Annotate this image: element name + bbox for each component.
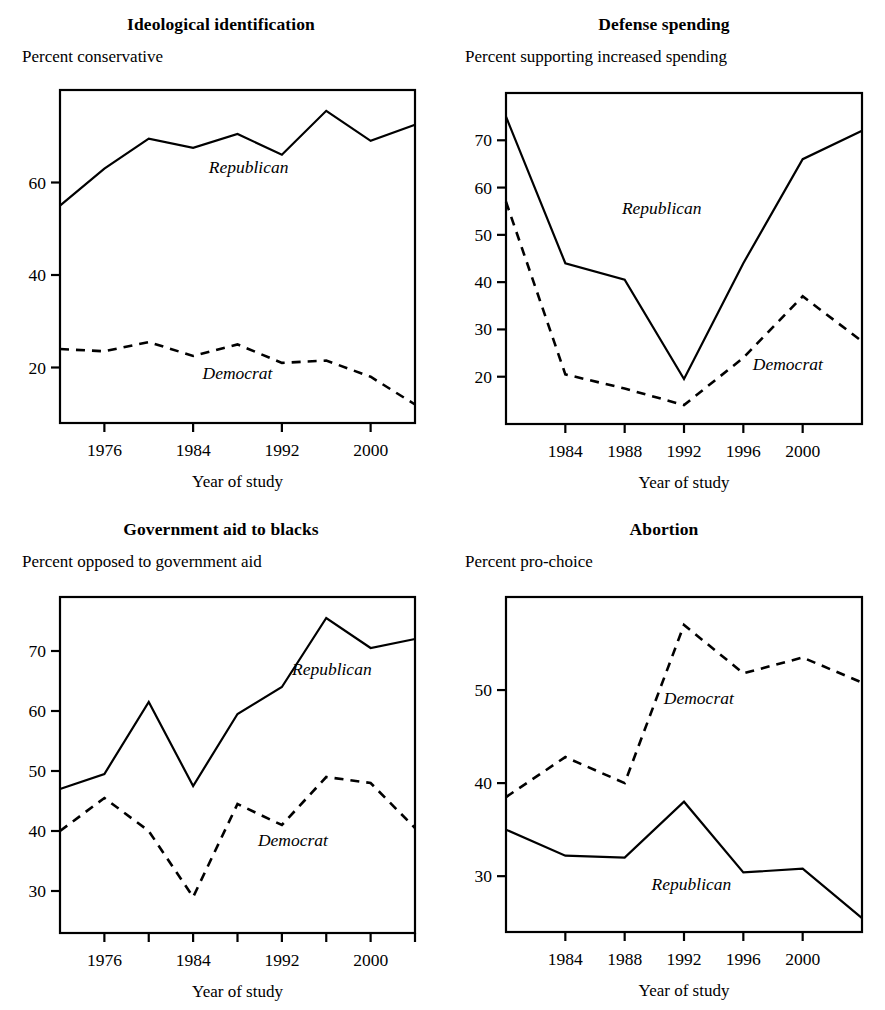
figure-grid: Ideological identification Percent conse… (0, 0, 885, 1010)
x-tick-label: 1988 (607, 949, 642, 969)
x-tick-label: 1992 (667, 949, 702, 969)
plot-area-1: 2040601976198419922000Year of studyRepub… (0, 0, 442, 505)
x-tick-label: 2000 (353, 440, 388, 460)
x-axis-title: Year of study (639, 981, 730, 1000)
series-annotation-democrat: Democrat (202, 363, 274, 383)
series-annotation-democrat: Democrat (663, 688, 735, 708)
y-tick-label: 50 (475, 680, 493, 700)
x-axis-title: Year of study (639, 473, 730, 492)
series-annotation-democrat: Democrat (257, 830, 329, 850)
y-tick-label: 20 (29, 358, 47, 378)
y-tick-label: 70 (475, 130, 493, 150)
chart-panel-abortion: Abortion Percent pro-choice 304050198419… (443, 505, 885, 1010)
x-tick-label: 1984 (548, 441, 583, 461)
x-tick-label: 1992 (264, 440, 299, 460)
plot-area-2: 20304050607019841988199219962000Year of … (443, 0, 885, 505)
x-tick-label: 1984 (176, 950, 211, 970)
y-tick-label: 40 (475, 773, 493, 793)
series-annotation-republican: Republican (208, 157, 289, 177)
series-line-democrat (60, 777, 415, 897)
y-tick-label: 40 (29, 821, 47, 841)
x-tick-label: 1984 (548, 949, 583, 969)
y-tick-label: 60 (475, 178, 493, 198)
plot-svg-1: 2040601976198419922000Year of studyRepub… (0, 0, 442, 505)
y-tick-label: 30 (475, 319, 493, 339)
plot-svg-3: 30405060701976198419922000Year of studyR… (0, 505, 442, 1010)
series-annotation-republican: Republican (291, 659, 372, 679)
series-line-democrat (506, 625, 862, 797)
x-tick-label: 2000 (353, 950, 388, 970)
plot-area-3: 30405060701976198419922000Year of studyR… (0, 505, 442, 1010)
y-tick-label: 40 (29, 265, 47, 285)
series-annotation-republican: Republican (651, 874, 732, 894)
x-tick-label: 1976 (87, 440, 122, 460)
y-tick-label: 30 (29, 881, 47, 901)
y-tick-label: 30 (475, 866, 493, 886)
plot-area-4: 30405019841988199219962000Year of studyR… (443, 505, 885, 1010)
series-line-republican (60, 618, 415, 789)
y-tick-label: 60 (29, 173, 47, 193)
x-tick-label: 1992 (264, 950, 299, 970)
x-tick-label: 1988 (607, 441, 642, 461)
x-tick-label: 1996 (726, 441, 761, 461)
y-tick-label: 20 (475, 367, 493, 387)
x-tick-label: 1992 (667, 441, 702, 461)
x-tick-label: 1976 (87, 950, 122, 970)
x-axis-title: Year of study (192, 982, 283, 1001)
chart-panel-government-aid-to-blacks: Government aid to blacks Percent opposed… (0, 505, 442, 1010)
series-annotation-democrat: Democrat (752, 354, 824, 374)
plot-svg-2: 20304050607019841988199219962000Year of … (443, 0, 885, 505)
series-line-democrat (506, 202, 862, 405)
x-tick-label: 2000 (785, 441, 820, 461)
y-tick-label: 60 (29, 701, 47, 721)
x-tick-label: 1984 (176, 440, 211, 460)
x-tick-label: 1996 (726, 949, 761, 969)
chart-panel-defense-spending: Defense spending Percent supporting incr… (443, 0, 885, 505)
y-tick-label: 70 (29, 641, 47, 661)
x-axis-title: Year of study (192, 472, 283, 491)
y-tick-label: 40 (475, 272, 493, 292)
x-tick-label: 2000 (785, 949, 820, 969)
y-tick-label: 50 (475, 225, 493, 245)
chart-panel-ideological-identification: Ideological identification Percent conse… (0, 0, 442, 505)
plot-svg-4: 30405019841988199219962000Year of studyR… (443, 505, 885, 1010)
series-line-republican (506, 802, 862, 918)
series-line-republican (506, 117, 862, 379)
series-annotation-republican: Republican (621, 198, 702, 218)
y-tick-label: 50 (29, 761, 47, 781)
